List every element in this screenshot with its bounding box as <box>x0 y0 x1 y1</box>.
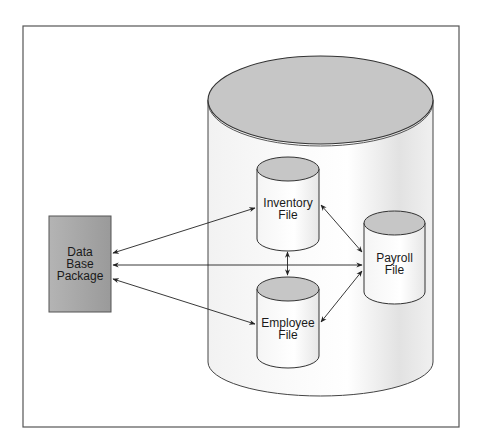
database-top <box>208 56 433 144</box>
data-base-package-box[interactable]: Data Base Package <box>49 216 111 312</box>
package-label-line3: Package <box>57 269 104 283</box>
employee-file-cylinder[interactable]: Employee File <box>257 277 319 368</box>
payroll-file-cylinder[interactable]: Payroll File <box>364 211 425 304</box>
inventory-file-cylinder[interactable]: Inventory File <box>257 157 319 251</box>
payroll-file-label-line2: File <box>385 263 405 277</box>
diagram-canvas: Inventory File Employee File Payroll Fil… <box>0 0 479 438</box>
inventory-file-label-line2: File <box>278 208 298 222</box>
employee-file-label-line2: File <box>278 328 298 342</box>
